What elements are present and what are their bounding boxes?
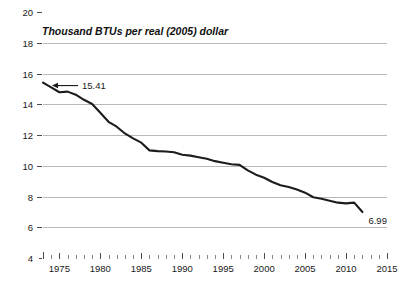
y-tick-label: 14 (22, 99, 33, 110)
x-tick-label: 2000 (254, 263, 275, 274)
chart-page: 201816141210864 197519801985199019952000… (0, 0, 412, 282)
x-tick-label: 1995 (213, 263, 234, 274)
y-tick-label: 16 (22, 69, 33, 80)
chart-background (0, 0, 412, 282)
y-tick-label: 10 (22, 161, 33, 172)
y-tick-label: 6 (28, 222, 33, 233)
x-tick-label: 1985 (131, 263, 152, 274)
x-tick-label: 2015 (376, 263, 397, 274)
x-tick-label: 1980 (90, 263, 111, 274)
y-tick-label: 20 (22, 7, 33, 18)
x-tick-label-group: 197519801985199019952000200520102015 (49, 263, 398, 274)
end-value-label: 6.99 (368, 215, 387, 226)
x-tick-label: 2005 (295, 263, 316, 274)
y-tick-label: 8 (28, 192, 33, 203)
energy-intensity-line-chart: 201816141210864 197519801985199019952000… (0, 0, 412, 282)
start-value-label: 15.41 (82, 80, 106, 91)
y-tick-label: 18 (22, 38, 33, 49)
x-tick-label: 1975 (49, 263, 70, 274)
chart-title: Thousand BTUs per real (2005) dollar (42, 25, 229, 37)
x-tick-label: 1990 (172, 263, 193, 274)
y-tick-label: 12 (22, 130, 33, 141)
y-tick-label: 4 (28, 253, 33, 264)
x-tick-label: 2010 (335, 263, 356, 274)
